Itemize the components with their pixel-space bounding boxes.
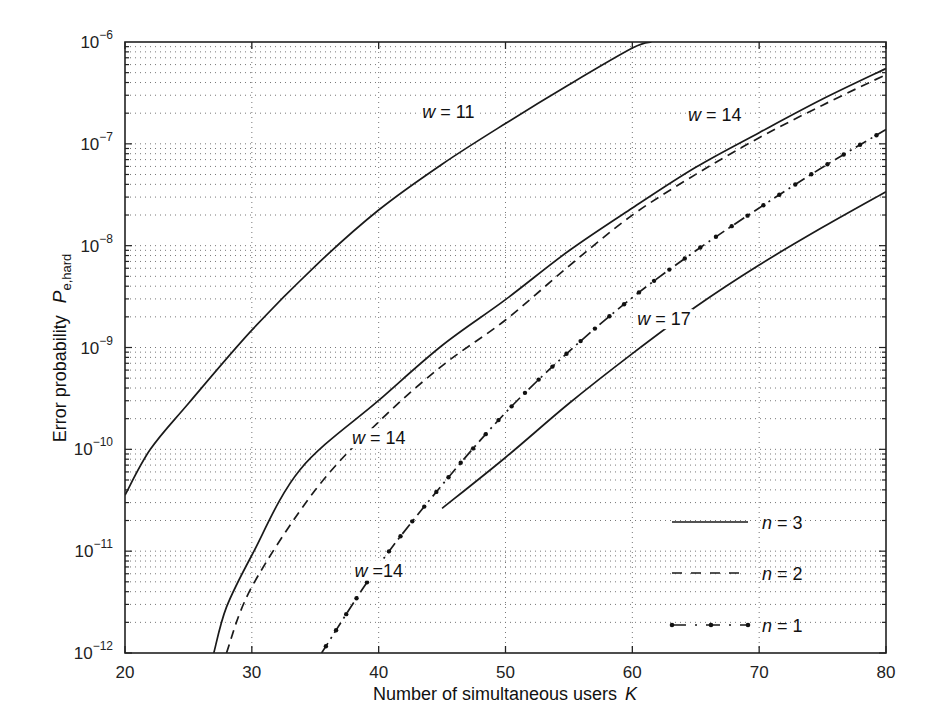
curve-marker <box>745 213 749 217</box>
x-tick-label: 70 <box>750 663 769 682</box>
curve-marker <box>564 352 568 356</box>
curve-marker <box>652 279 656 283</box>
curve-label: w = 17 <box>637 309 691 329</box>
y-tick-label: 10−11 <box>75 537 114 561</box>
x-tick-label: 80 <box>877 663 896 682</box>
y-axis-label: Error probabilityPe,hard <box>49 254 74 443</box>
y-tick-label: 10−9 <box>80 334 113 358</box>
curve-marker <box>698 245 702 249</box>
curve-marker <box>714 235 718 239</box>
curve-marker <box>344 612 348 616</box>
curve-marker <box>550 364 554 368</box>
curve-solid <box>442 192 886 509</box>
x-tick-label: 40 <box>369 663 388 682</box>
y-tick-label: 10−6 <box>80 28 113 52</box>
legend-marker <box>709 623 714 628</box>
curve-label: w = 14 <box>688 105 742 125</box>
curve-marker <box>446 475 450 479</box>
curve-marker <box>387 549 391 553</box>
curve-marker <box>842 152 846 156</box>
grid-lines <box>125 42 886 653</box>
legend-marker <box>670 623 675 628</box>
legend-label: n = 3 <box>762 513 803 533</box>
curve-solid <box>125 42 651 495</box>
curve-marker <box>761 203 765 207</box>
curve-marker <box>354 596 358 600</box>
curve-marker <box>593 326 597 330</box>
y-tick-label: 10−7 <box>80 130 113 154</box>
curve-marker <box>484 432 488 436</box>
curve-marker <box>825 162 829 166</box>
y-tick-label: 10−10 <box>74 435 114 459</box>
curve-marker <box>667 267 671 271</box>
legend-label: n = 2 <box>762 564 803 584</box>
curve-marker <box>398 534 402 538</box>
curve-marker <box>496 418 500 422</box>
curve-marker <box>637 290 641 294</box>
curve-marker <box>410 519 414 523</box>
curve-marker <box>509 404 513 408</box>
curve-marker <box>874 133 878 137</box>
curve-marker <box>809 172 813 176</box>
curve-marker <box>777 193 781 197</box>
x-tick-label: 20 <box>116 663 135 682</box>
legend-label: n = 1 <box>762 616 803 636</box>
curve-marker <box>459 461 463 465</box>
curve-label: w =14 <box>354 561 403 581</box>
x-axis-label: Number of simultaneous usersK <box>373 684 638 704</box>
x-tick-label: 50 <box>496 663 515 682</box>
x-tick-label: 60 <box>623 663 642 682</box>
curve-marker <box>422 504 426 508</box>
y-tick-label: 10−12 <box>74 639 114 663</box>
y-tick-label: 10−8 <box>80 232 113 256</box>
curve-marker <box>365 580 369 584</box>
curve-marker <box>607 314 611 318</box>
curve-label: w = 14 <box>352 428 406 448</box>
legend: n = 3n = 2n = 1 <box>670 513 803 636</box>
x-tick-label: 30 <box>242 663 261 682</box>
curve-label: w = 11 <box>422 102 474 122</box>
curve-marker <box>858 143 862 147</box>
curve-marker <box>523 391 527 395</box>
curve-marker <box>622 302 626 306</box>
curve-marker <box>471 446 475 450</box>
curve-marker <box>578 339 582 343</box>
error-probability-chart: w = 11w = 14w = 17w = 14w =14 n = 3n = 2… <box>0 0 939 726</box>
curve-marker <box>793 182 797 186</box>
curve-marker <box>334 628 338 632</box>
legend-marker <box>746 623 751 628</box>
curve-marker <box>683 256 687 260</box>
curve-marker <box>730 224 734 228</box>
curve-marker <box>536 377 540 381</box>
curve-marker <box>324 644 328 648</box>
curve-marker <box>434 490 438 494</box>
